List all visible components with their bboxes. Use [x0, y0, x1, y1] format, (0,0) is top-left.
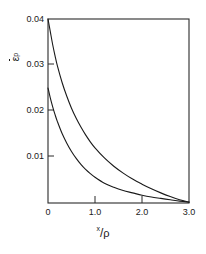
- chart-figure: 0.04 0.03 0.02 0.01 0 1.0 2.0 3.0 εp x/ρ: [0, 0, 206, 254]
- x-axis-label-fraction: x/ρ: [96, 226, 109, 240]
- y-axis-label: εp: [2, 44, 28, 70]
- x-axis-label-denominator: ρ: [103, 227, 109, 239]
- x-axis-label: x/ρ: [0, 226, 206, 240]
- x-tick-label-3.0: 3.0: [174, 207, 204, 217]
- x-tick-label-1.0: 1.0: [80, 207, 110, 217]
- y-tick-label-0.01: 0.01: [16, 151, 44, 161]
- y-tick-label-0.02: 0.02: [16, 105, 44, 115]
- y-tick-label-0.04: 0.04: [16, 14, 44, 24]
- x-tick-label-2.0: 2.0: [127, 207, 157, 217]
- plot-frame: [48, 19, 189, 203]
- y-axis-label-epsilon: ε: [10, 57, 21, 61]
- y-axis-label-symbol: ε: [10, 57, 21, 61]
- overbar-glyph: [9, 59, 10, 61]
- x-axis-label-numerator: x: [96, 225, 100, 232]
- x-tick-label-0: 0: [33, 207, 63, 217]
